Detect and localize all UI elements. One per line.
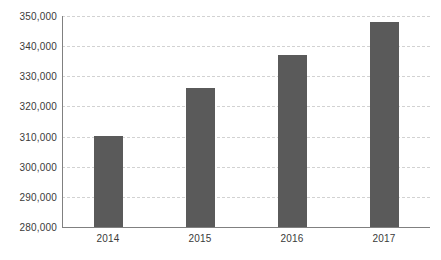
x-axis-tick-labels: 2014201520162017 [62, 233, 430, 253]
bar [278, 55, 307, 227]
bar-chart: 280,000290,000300,000310,000320,000330,0… [0, 0, 441, 260]
y-axis-tick-label: 350,000 [0, 11, 57, 22]
y-axis-tick-label: 320,000 [0, 101, 57, 112]
y-axis-tick-label: 300,000 [0, 161, 57, 172]
x-axis-line [62, 227, 430, 228]
y-axis-tick-label: 280,000 [0, 222, 57, 233]
x-axis-tick-label: 2016 [262, 233, 322, 244]
bar [186, 88, 215, 227]
bar [94, 136, 123, 227]
y-axis-tick-label: 340,000 [0, 41, 57, 52]
y-axis-tick-label: 290,000 [0, 191, 57, 202]
x-axis-tick-label: 2014 [78, 233, 138, 244]
y-axis-tick-label: 330,000 [0, 71, 57, 82]
y-axis-tick-labels: 280,000290,000300,000310,000320,000330,0… [0, 0, 57, 260]
x-axis-tick-label: 2017 [354, 233, 414, 244]
bar-series [62, 16, 430, 227]
bar [370, 22, 399, 227]
x-axis-tick-label: 2015 [170, 233, 230, 244]
y-axis-tick-label: 310,000 [0, 131, 57, 142]
